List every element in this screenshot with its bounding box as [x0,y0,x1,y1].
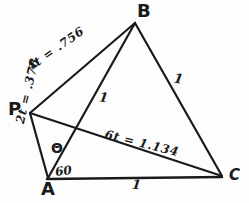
geometry-figure: B C A P 4t = .756 2t = .378 6t = 1.134 1… [0,0,249,203]
edge-label-AB: 1 [98,90,109,104]
vertex-label-C: C [229,168,240,183]
line-segment-BC [135,23,222,176]
figure-linework [0,0,249,203]
angle-label-theta: Θ [51,141,63,155]
vertex-label-A: A [41,180,55,198]
vertex-label-B: B [137,2,151,20]
line-segment-PA [30,113,48,178]
edge-label-AC: 1 [131,178,141,192]
angle-label-60: 60 [54,164,72,178]
